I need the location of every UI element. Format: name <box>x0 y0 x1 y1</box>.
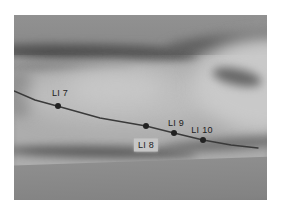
acupoint-label-li-9: LI 9 <box>168 119 184 128</box>
arm-photo: LI 7LI 8LI 9LI 10 <box>14 15 267 200</box>
acupoint-dot-li-7 <box>55 103 61 109</box>
acupoint-label-li-8: LI 8 <box>134 139 158 152</box>
acupoint-dot-li-8 <box>143 123 149 129</box>
acupoint-dot-li-10 <box>200 137 206 143</box>
acupoint-label-li-10: LI 10 <box>191 126 213 135</box>
meridian-overlay <box>14 15 267 200</box>
acupoint-dot-li-9 <box>171 130 177 136</box>
acupoint-label-li-7: LI 7 <box>52 89 68 98</box>
figure-page: LI 7LI 8LI 9LI 10 <box>0 0 282 213</box>
